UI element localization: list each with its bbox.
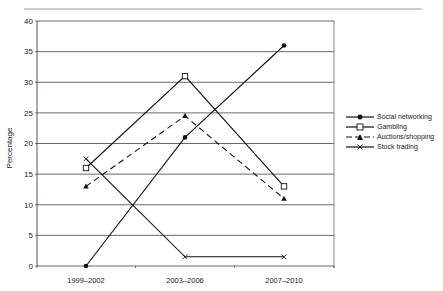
series-line: [86, 76, 284, 186]
data-point: [83, 183, 89, 188]
y-tick-label: 35: [24, 47, 33, 56]
x-tick-label: 2007–2010: [265, 276, 303, 285]
open-square-marker-icon: [346, 123, 374, 131]
y-tick-label: 0: [29, 262, 34, 271]
data-point: [84, 264, 89, 269]
series-line: [86, 116, 284, 199]
filled-circle-marker-icon: [346, 113, 374, 121]
legend-item-gambling: Gambling: [346, 122, 434, 132]
data-point: [83, 165, 88, 170]
data-point: [281, 196, 287, 201]
y-axis-label: Percentage: [5, 127, 14, 168]
legend-item-auctions-shopping: Auctions/shopping: [346, 132, 434, 142]
data-point: [282, 43, 287, 48]
legend-label: Auctions/shopping: [377, 132, 434, 142]
legend-label: Social networking: [377, 112, 432, 122]
x-cross-marker-icon: [346, 143, 374, 151]
legend-item-stock-trading: Stock trading: [346, 142, 434, 152]
data-point: [183, 135, 188, 140]
x-tick-label: 2003–2006: [166, 276, 204, 285]
series-lines: [83, 43, 287, 268]
legend-label: Stock trading: [377, 142, 418, 152]
legend: Social networking Gambling Auctions/shop…: [346, 112, 434, 152]
legend-label: Gambling: [377, 122, 407, 132]
y-tick-label: 30: [24, 78, 33, 87]
legend-item-social-networking: Social networking: [346, 112, 434, 122]
data-point: [84, 157, 89, 162]
y-tick-label: 5: [29, 231, 34, 240]
y-tick-label: 10: [24, 201, 33, 210]
x-tick-label: 1999–2002: [67, 276, 105, 285]
data-point: [281, 184, 286, 189]
data-point: [182, 113, 188, 118]
x-axis-ticks: 1999–20022003–20062007–2010: [67, 276, 303, 285]
y-axis-ticks: 0510152025303540: [24, 17, 37, 271]
filled-triangle-marker-icon: [346, 133, 374, 141]
gridlines: [37, 21, 334, 268]
y-tick-label: 40: [24, 17, 33, 26]
y-tick-label: 25: [24, 109, 33, 118]
data-point: [182, 73, 187, 78]
y-tick-label: 20: [24, 139, 33, 148]
y-tick-label: 15: [24, 170, 33, 179]
